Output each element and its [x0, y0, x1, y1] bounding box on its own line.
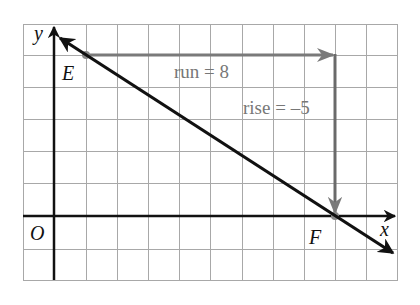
y-axis-label: y: [32, 22, 43, 45]
slope-diagram: y x O E F run = 8 rise = –5: [0, 0, 420, 305]
x-axis-label: x: [379, 218, 389, 240]
point-f-label: F: [308, 226, 322, 248]
point-e-label: E: [61, 62, 74, 84]
run-label: run = 8: [174, 61, 229, 82]
origin-label: O: [30, 222, 44, 244]
rise-label: rise = –5: [243, 97, 310, 118]
